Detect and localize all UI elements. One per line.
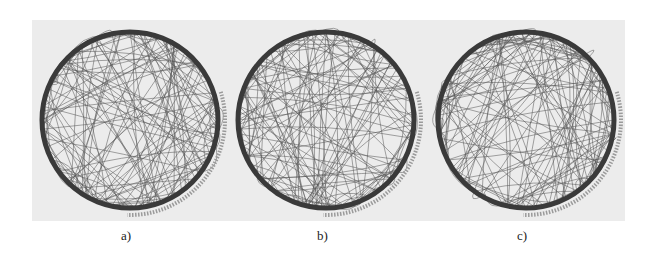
caption-c: c) [517, 228, 527, 244]
network-graph-b [238, 28, 421, 215]
caption-b: b) [317, 228, 328, 244]
network-graph-c [433, 29, 621, 215]
caption-a: a) [121, 228, 131, 244]
network-graph-a [42, 30, 225, 215]
network-graphs [0, 0, 658, 263]
